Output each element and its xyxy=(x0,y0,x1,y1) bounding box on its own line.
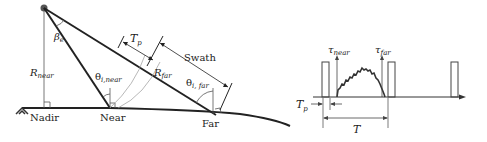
r-near-label: Rnear xyxy=(29,67,54,80)
sar-geometry-figure: βe Rnear θi,near Tp Rfar Swath θi, far N… xyxy=(0,0,487,142)
period-label: T xyxy=(353,123,362,136)
near-range-line xyxy=(44,8,110,108)
time-axis-arrowhead xyxy=(459,95,466,100)
swath-dim-line xyxy=(160,43,228,87)
tp-arrowhead-1 xyxy=(123,42,128,46)
theta-near-label: θi,near xyxy=(95,71,122,84)
swath-arrowhead-2 xyxy=(223,83,228,87)
geometry-diagram: βe Rnear θi,near Tp Rfar Swath θi, far N… xyxy=(16,5,290,130)
near-label: Near xyxy=(100,112,126,123)
theta-far-arc xyxy=(196,91,213,103)
theta-far-label: θi, far xyxy=(186,77,209,90)
tp-tick-2 xyxy=(147,36,163,66)
ground-line xyxy=(22,108,290,126)
tp-arrowhead-left xyxy=(318,102,323,106)
beta-arc xyxy=(56,20,64,26)
beta-label: βe xyxy=(53,31,64,44)
pulse-1 xyxy=(322,62,329,97)
figure-svg: βe Rnear θi,near Tp Rfar Swath θi, far N… xyxy=(0,0,487,142)
swath-arrowhead-1 xyxy=(160,43,165,47)
pulse-2 xyxy=(388,62,395,97)
far-label: Far xyxy=(202,118,219,129)
tp-arrowhead-right xyxy=(330,102,335,106)
period-arrowhead-right xyxy=(383,116,388,120)
pulse-3 xyxy=(451,62,458,97)
timing-diagram: τnear τfar Tp T xyxy=(296,44,466,136)
nadir-label: Nadir xyxy=(30,112,59,123)
tp-label: Tp xyxy=(130,32,142,47)
echo-signal xyxy=(337,68,385,97)
tau-near-label: τnear xyxy=(328,44,350,57)
tau-far-label: τfar xyxy=(375,44,391,57)
tp-time-label: Tp xyxy=(296,98,308,113)
swath-tick xyxy=(220,83,232,110)
swath-label: Swath xyxy=(184,52,216,63)
theta-near-arc xyxy=(103,94,110,97)
period-arrowhead-left xyxy=(323,116,328,120)
